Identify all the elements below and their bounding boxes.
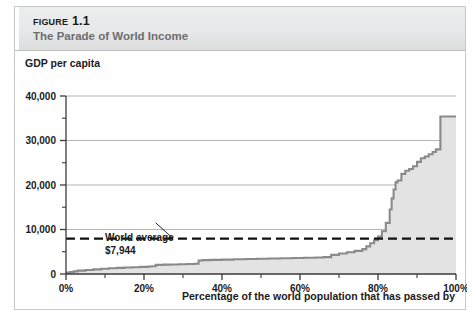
chart-plot: World average $7,944 [15,51,467,310]
annotation-line2: $7,944 [105,245,136,256]
figure-label: Figure 1.1 [33,13,90,28]
figure-root: Figure 1.1 The Parade of World Income GD… [0,0,475,330]
x-axis-caption: Percentage of the world population that … [182,290,455,302]
figure-frame: Figure 1.1 The Parade of World Income GD… [14,6,466,310]
figure-header: Figure 1.1 The Parade of World Income [15,7,465,51]
x-tick-label: 0% [59,283,74,294]
annotation-line1: World average [105,232,174,243]
figure-subtitle: The Parade of World Income [33,30,188,42]
x-tick-label: 20% [134,283,154,294]
y-tick-label: 30,000 [25,135,56,146]
y-tick-label: 10,000 [25,224,56,235]
y-axis-major-ticks [60,96,66,274]
chart-body: GDP per capita [15,51,465,310]
y-axis-tick-labels: 40,000 30,000 20,000 10,000 0 [25,91,56,280]
y-tick-label: 40,000 [25,91,56,102]
y-tick-label: 0 [50,269,56,280]
y-tick-label: 20,000 [25,180,56,191]
